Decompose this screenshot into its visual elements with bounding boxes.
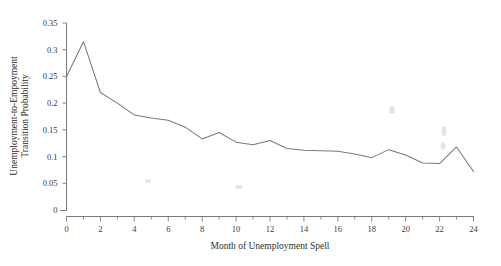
- y-tick-label: 0.3: [47, 45, 58, 55]
- y-tick-label: 0.15: [43, 125, 58, 135]
- x-tick-label: 0: [64, 224, 68, 234]
- x-tick-label: 14: [300, 224, 309, 234]
- chart-background: [0, 0, 501, 266]
- x-tick-label: 12: [266, 224, 275, 234]
- x-tick-label: 10: [232, 224, 241, 234]
- x-axis-title: Month of Unemployment Spell: [210, 241, 329, 251]
- x-tick-label: 24: [469, 224, 478, 234]
- line-chart: 00.050.10.150.20.250.30.35 0246810121416…: [0, 0, 501, 266]
- x-tick-label: 18: [368, 224, 377, 234]
- y-tick-label: 0.35: [43, 18, 58, 28]
- y-tick-label: 0.1: [47, 152, 58, 162]
- x-tick-label: 4: [132, 224, 137, 234]
- y-tick-label: 0: [53, 205, 57, 215]
- chart-container: 00.050.10.150.20.250.30.35 0246810121416…: [0, 0, 501, 266]
- y-tick-label: 0.25: [43, 71, 58, 81]
- x-tick-label: 22: [435, 224, 444, 234]
- y-axis-title-line-2: Transition Probability: [20, 74, 30, 158]
- x-tick-label: 8: [200, 224, 204, 234]
- x-tick-label: 6: [166, 224, 170, 234]
- x-tick-label: 16: [334, 224, 343, 234]
- x-tick-label: 2: [98, 224, 102, 234]
- y-tick-label: 0.2: [47, 98, 58, 108]
- y-tick-label: 0.05: [43, 178, 58, 188]
- x-tick-label: 20: [401, 224, 410, 234]
- y-axis-title-line-1: Unemployment-to-Empoyment: [9, 56, 19, 176]
